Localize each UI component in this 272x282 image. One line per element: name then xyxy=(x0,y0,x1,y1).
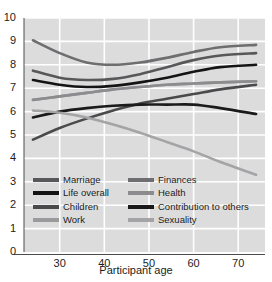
legend-item-label: Work xyxy=(63,215,85,225)
legend-swatch-icon xyxy=(33,191,59,195)
y-tick-label: 3 xyxy=(0,175,16,187)
legend-item-label: Marriage xyxy=(63,175,101,185)
legend-item-label: Life overall xyxy=(63,188,109,198)
legend-item-label: Finances xyxy=(158,175,197,185)
legend-swatch-icon xyxy=(128,191,154,195)
y-tick-label: 1 xyxy=(0,222,16,234)
legend-item-label: Health xyxy=(158,188,185,198)
chart-figure: 012345678910 3040506070 Participant age … xyxy=(0,0,272,282)
y-tick-label: 9 xyxy=(0,34,16,46)
legend-item: Sexuality xyxy=(128,214,265,228)
y-tick-label: 7 xyxy=(0,81,16,93)
legend-item-label: Children xyxy=(63,202,98,212)
legend-item: Work xyxy=(33,214,128,228)
legend-item: Contribution to others xyxy=(128,200,265,214)
chart-legend: MarriageFinancesLife overallHealthChildr… xyxy=(33,173,265,228)
x-axis-title: Participant age xyxy=(0,264,272,276)
legend-item: Marriage xyxy=(33,173,128,187)
y-tick-label: 4 xyxy=(0,151,16,163)
legend-swatch-icon xyxy=(33,218,59,222)
legend-swatch-icon xyxy=(128,205,154,209)
legend-item: Health xyxy=(128,187,265,201)
y-tick-label: 6 xyxy=(0,105,16,117)
y-tick-label: 8 xyxy=(0,58,16,70)
legend-swatch-icon xyxy=(33,205,59,209)
y-tick-label: 0 xyxy=(0,245,16,257)
legend-swatch-icon xyxy=(128,218,154,222)
y-tick-label: 10 xyxy=(0,11,16,23)
legend-item-label: Sexuality xyxy=(158,215,197,225)
line-chart-plot xyxy=(0,0,272,282)
y-tick-label: 5 xyxy=(0,128,16,140)
legend-swatch-icon xyxy=(33,178,59,182)
legend-swatch-icon xyxy=(128,178,154,182)
legend-item: Finances xyxy=(128,173,265,187)
legend-item: Life overall xyxy=(33,187,128,201)
legend-item-label: Contribution to others xyxy=(158,202,249,212)
y-tick-label: 2 xyxy=(0,198,16,210)
legend-item: Children xyxy=(33,200,128,214)
